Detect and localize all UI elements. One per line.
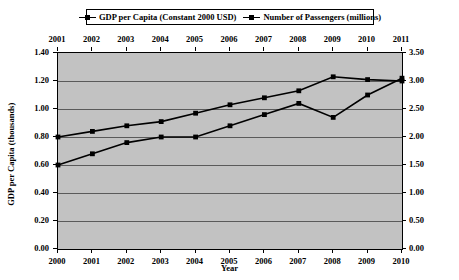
y-axis-right-tick-label: 0.50 — [409, 216, 443, 225]
y-axis-left-tick-label: 0.60 — [15, 160, 49, 169]
x-axis-tick — [367, 249, 368, 253]
legend-marker-icon — [79, 13, 96, 22]
data-point — [296, 88, 301, 93]
top-axis-tick — [401, 47, 402, 51]
data-point — [90, 129, 95, 134]
top-axis-tick-label: 2004 — [152, 35, 169, 44]
y-axis-left-tick-label: 0.00 — [15, 244, 49, 253]
y-axis-left-tick — [53, 52, 57, 53]
legend-label-gdp: GDP per Capita (Constant 2000 USD) — [99, 13, 237, 22]
y-axis-left-title: GDP per Capita (thousands) — [7, 99, 16, 209]
top-axis-tick-label: 2005 — [186, 35, 203, 44]
top-axis-tick — [229, 47, 230, 51]
top-axis-tick-label: 2006 — [221, 35, 238, 44]
y-axis-left-tick — [53, 108, 57, 109]
chart-container: GDP per Capita (Constant 2000 USD) Numbe… — [0, 0, 459, 280]
x-axis-tick — [126, 249, 127, 253]
top-axis-tick-label: 2007 — [255, 35, 272, 44]
y-axis-left-tick-label: 0.80 — [15, 132, 49, 141]
y-axis-right-tick — [402, 136, 406, 137]
top-axis-tick-label: 2008 — [289, 35, 306, 44]
y-axis-right-tick — [402, 108, 406, 109]
top-axis-tick — [263, 47, 264, 51]
data-point — [262, 112, 267, 117]
top-axis-tick-label: 2010 — [358, 35, 375, 44]
y-axis-right-tick-label: 1.00 — [409, 188, 443, 197]
y-axis-right-tick — [402, 220, 406, 221]
y-axis-right-tick — [402, 164, 406, 165]
top-axis-tick-label: 2001 — [49, 35, 66, 44]
y-axis-left-tick-label: 0.20 — [15, 216, 49, 225]
y-axis-right-tick-label: 2.00 — [409, 132, 443, 141]
y-axis-left-tick — [53, 192, 57, 193]
top-axis-tick — [298, 47, 299, 51]
top-axis-tick — [367, 47, 368, 51]
data-point — [262, 95, 267, 100]
top-axis-tick-label: 2009 — [324, 35, 341, 44]
y-axis-left-tick — [53, 136, 57, 137]
data-point — [365, 77, 370, 82]
x-axis-tick — [298, 249, 299, 253]
y-axis-right-tick — [402, 248, 406, 249]
top-axis-tick — [57, 47, 58, 51]
data-point — [193, 111, 198, 116]
x-axis-title: Year — [0, 264, 459, 273]
x-axis-tick — [401, 249, 402, 253]
y-axis-right-tick-label: 3.50 — [409, 48, 443, 57]
y-axis-left-tick-label: 0.40 — [15, 188, 49, 197]
top-axis-tick — [332, 47, 333, 51]
data-series-layer — [58, 53, 402, 249]
top-axis-tick-label: 2011 — [393, 35, 410, 44]
y-axis-right-tick — [402, 80, 406, 81]
top-axis-tick-label: 2002 — [83, 35, 100, 44]
data-point — [228, 123, 233, 128]
data-point — [159, 119, 164, 124]
x-axis-tick — [229, 249, 230, 253]
y-axis-right-tick-label: 2.50 — [409, 104, 443, 113]
series-line-passengers — [58, 78, 402, 165]
y-axis-left-tick — [53, 164, 57, 165]
y-axis-right-tick-label: 3.00 — [409, 76, 443, 85]
top-axis-tick-label: 2003 — [117, 35, 134, 44]
x-axis-tick — [91, 249, 92, 253]
y-axis-right-tick-label: 1.50 — [409, 160, 443, 169]
x-axis-tick — [263, 249, 264, 253]
legend-entry-passengers: Number of Passengers (millions) — [243, 13, 381, 22]
y-axis-right-tick-label: 0.00 — [409, 244, 443, 253]
chart-legend: GDP per Capita (Constant 2000 USD) Numbe… — [86, 9, 374, 25]
y-axis-left-tick-label: 1.00 — [15, 104, 49, 113]
plot-area — [57, 52, 403, 250]
data-point — [331, 74, 336, 79]
data-point — [365, 93, 370, 98]
x-axis-tick — [195, 249, 196, 253]
y-axis-left-tick — [53, 80, 57, 81]
y-axis-left-tick — [53, 220, 57, 221]
top-axis-tick — [195, 47, 196, 51]
data-point — [296, 101, 301, 106]
data-point — [124, 140, 129, 145]
x-axis-tick — [160, 249, 161, 253]
data-point — [90, 151, 95, 156]
data-point — [159, 135, 164, 140]
legend-marker-icon — [243, 13, 260, 22]
legend-label-passengers: Number of Passengers (millions) — [263, 13, 381, 22]
y-axis-left-tick-label: 1.40 — [15, 48, 49, 57]
y-axis-left-tick-label: 1.20 — [15, 76, 49, 85]
data-point — [331, 115, 336, 120]
data-point — [228, 102, 233, 107]
x-axis-tick — [57, 249, 58, 253]
top-axis-tick — [91, 47, 92, 51]
y-axis-right-tick — [402, 52, 406, 53]
data-point — [124, 123, 129, 128]
top-axis-tick — [126, 47, 127, 51]
y-axis-right-tick — [402, 192, 406, 193]
top-axis-tick — [160, 47, 161, 51]
data-point — [193, 135, 198, 140]
legend-entry-gdp: GDP per Capita (Constant 2000 USD) — [79, 13, 237, 22]
x-axis-tick — [332, 249, 333, 253]
